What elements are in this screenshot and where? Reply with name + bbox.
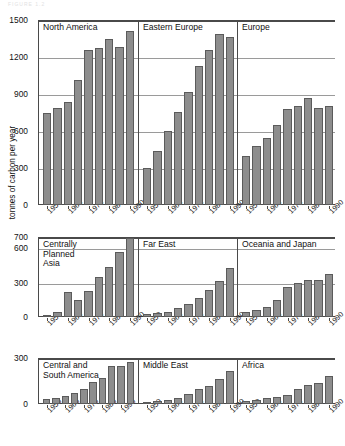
bar xyxy=(143,402,151,404)
bar xyxy=(115,47,123,205)
bar xyxy=(174,398,182,404)
bar xyxy=(95,277,103,317)
y-tick-label: 300 xyxy=(14,164,28,172)
y-tick-label: 1500 xyxy=(9,16,28,24)
x-axis-ticks: 19501960197019801990 xyxy=(238,405,336,429)
y-axis-ticks: 0300 xyxy=(0,358,30,404)
bar xyxy=(126,31,134,205)
bar xyxy=(283,395,291,405)
x-axis-ticks: 19501960197019801990 xyxy=(39,206,138,232)
bar xyxy=(226,268,234,317)
x-axis-ticks: 19501960197019801990 xyxy=(39,318,138,342)
bar xyxy=(99,378,106,404)
bar xyxy=(205,290,213,317)
panel-title: Central and South America xyxy=(43,361,99,380)
bar xyxy=(205,50,213,205)
panel-title: Middle East xyxy=(143,361,188,371)
bar xyxy=(95,48,103,205)
y-tick-label: 0 xyxy=(23,201,28,209)
bar xyxy=(314,280,322,317)
bar xyxy=(89,382,96,404)
plot-area: North America19501960197019801990Eastern… xyxy=(38,20,335,205)
bar xyxy=(80,389,87,404)
bar xyxy=(314,108,322,205)
y-tick-label: 300 xyxy=(14,354,28,362)
bar xyxy=(283,287,291,317)
bar xyxy=(215,281,223,317)
bar xyxy=(43,315,51,317)
facet-row: 0300Central and South America19501960197… xyxy=(0,358,337,428)
bar xyxy=(174,308,182,317)
x-axis-ticks: 19501960197019801990 xyxy=(238,318,336,342)
bar xyxy=(64,292,72,317)
bar-group xyxy=(238,21,336,205)
bar xyxy=(304,98,312,205)
bar xyxy=(325,106,333,205)
bar xyxy=(153,401,161,404)
bar xyxy=(205,386,213,404)
facet-panel: Oceania and Japan19501960197019801990 xyxy=(237,238,336,317)
bar xyxy=(184,92,192,205)
bar xyxy=(242,401,250,404)
facet-row: 0300600700Centrally Planned Asia19501960… xyxy=(0,237,337,341)
bar xyxy=(273,125,281,205)
facet-panel: Central and South America195019601970198… xyxy=(39,359,138,404)
panel-title: Europe xyxy=(242,23,270,33)
panel-title: Africa xyxy=(242,361,264,371)
panel-title: Eastern Europe xyxy=(143,23,203,33)
bar xyxy=(74,300,82,317)
bar xyxy=(53,312,61,317)
bar xyxy=(263,398,271,404)
y-axis-ticks: 0300600700 xyxy=(0,237,30,317)
bar xyxy=(53,108,61,205)
bar xyxy=(153,151,161,205)
y-tick-label: 0 xyxy=(23,400,28,408)
bar xyxy=(215,34,223,205)
bar xyxy=(242,312,250,317)
x-axis-ticks: 19501960197019801990 xyxy=(39,405,138,429)
bar xyxy=(164,131,172,205)
bar xyxy=(294,106,302,205)
bar xyxy=(184,304,192,317)
y-axis-ticks: 030060090012001500 xyxy=(0,20,30,205)
bar xyxy=(153,313,161,317)
bar xyxy=(71,393,78,404)
bar xyxy=(164,400,172,404)
y-tick-label: 700 xyxy=(14,233,28,241)
bar xyxy=(263,138,271,205)
bar-group xyxy=(139,21,237,205)
bar xyxy=(127,362,134,404)
bar xyxy=(117,366,124,404)
bar xyxy=(195,298,203,317)
x-axis-ticks: 19501960197019801990 xyxy=(238,206,336,232)
panel-title: Centrally Planned Asia xyxy=(43,240,77,269)
bar xyxy=(304,385,312,404)
bar xyxy=(252,400,260,404)
bar xyxy=(273,397,281,404)
bar xyxy=(242,156,250,205)
bar xyxy=(74,80,82,205)
x-axis-ticks: 19501960197019801990 xyxy=(139,206,237,232)
bar xyxy=(325,274,333,317)
plot-area: Central and South America195019601970198… xyxy=(38,358,335,404)
y-tick-label: 600 xyxy=(14,127,28,135)
bar xyxy=(108,366,115,404)
bar xyxy=(252,146,260,205)
bar-group xyxy=(139,238,237,317)
bar xyxy=(294,389,302,404)
x-axis-ticks: 19501960197019801990 xyxy=(139,405,237,429)
bar xyxy=(195,389,203,404)
bar xyxy=(43,399,50,404)
bar xyxy=(304,280,312,317)
bar xyxy=(215,379,223,404)
bar xyxy=(174,112,182,205)
bar xyxy=(84,291,92,317)
bar-group xyxy=(238,238,336,317)
bar xyxy=(105,267,113,317)
y-tick-label: 300 xyxy=(14,279,28,287)
bar xyxy=(314,383,322,404)
bar xyxy=(64,102,72,205)
bar xyxy=(43,113,51,205)
bar xyxy=(263,307,271,317)
panel-title: North America xyxy=(43,23,97,33)
